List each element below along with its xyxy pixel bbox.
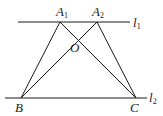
label-a1: A1	[55, 4, 68, 20]
label-c: C	[130, 100, 139, 115]
label-a2: A2	[91, 4, 104, 20]
label-o: O	[70, 40, 80, 55]
segment-a2-c	[97, 22, 136, 98]
label-l2: l2	[149, 90, 157, 106]
label-l1: l1	[133, 15, 141, 31]
segment-a1-c	[60, 22, 136, 98]
segment-a1-b	[21, 22, 60, 98]
geometry-diagram: A1 A2 l1 O B C l2	[0, 0, 163, 116]
segment-a2-b	[21, 22, 97, 98]
label-b: B	[15, 100, 23, 115]
